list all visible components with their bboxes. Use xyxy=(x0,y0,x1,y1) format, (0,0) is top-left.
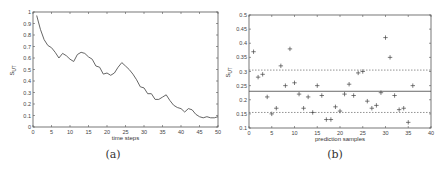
y-tick-label: 0.15 xyxy=(236,111,247,117)
y-axis-label: SUT xyxy=(9,65,17,75)
x-axis-label: time steps xyxy=(112,135,139,141)
y-tick-label: 0.8 xyxy=(23,32,31,38)
x-tick-label: 30 xyxy=(141,129,147,135)
x-tick-label: 30 xyxy=(382,130,388,136)
data-point-plus-marker xyxy=(411,83,415,87)
data-point-plus-marker xyxy=(383,35,387,39)
x-tick-label: 45 xyxy=(196,129,202,135)
y-tick-label: 1 xyxy=(28,9,31,15)
y-tick-label: 0.4 xyxy=(239,40,247,46)
data-point-plus-marker xyxy=(315,83,319,87)
y-tick-label: 0.5 xyxy=(239,12,247,18)
data-point-plus-marker xyxy=(406,120,410,124)
x-tick-label: 35 xyxy=(405,130,411,136)
data-point-plus-marker xyxy=(365,99,369,103)
data-point-plus-marker xyxy=(342,92,346,96)
y-tick-label: 0.9 xyxy=(23,21,31,27)
data-point-plus-marker xyxy=(279,64,283,68)
x-tick-label: 50 xyxy=(215,129,221,135)
data-point-plus-marker xyxy=(274,106,278,110)
figure-caption: (b) xyxy=(327,148,343,161)
x-tick-label: 5 xyxy=(50,129,53,135)
y-tick-label: 0.25 xyxy=(236,83,247,89)
data-point-plus-marker xyxy=(351,93,355,97)
data-point-plus-marker xyxy=(392,93,396,97)
y-tick-label: 0.6 xyxy=(23,55,31,61)
data-point-plus-marker xyxy=(329,117,333,121)
data-point-plus-marker xyxy=(301,106,305,110)
data-point-plus-marker xyxy=(333,105,337,109)
x-tick-label: 0 xyxy=(31,129,34,135)
x-tick-label: 20 xyxy=(104,129,110,135)
data-point-plus-marker xyxy=(288,47,292,51)
figure-caption: (a) xyxy=(105,148,120,161)
data-point-plus-marker xyxy=(324,117,328,121)
x-tick-label: 5 xyxy=(270,130,273,136)
data-point-plus-marker xyxy=(292,81,296,85)
data-point-plus-marker xyxy=(297,92,301,96)
data-point-plus-marker xyxy=(374,103,378,107)
y-tick-label: 0.2 xyxy=(239,97,247,103)
x-tick-label: 10 xyxy=(67,129,73,135)
data-line xyxy=(37,16,218,118)
y-tick-label: 0.7 xyxy=(23,44,31,50)
x-axis-label: prediction samples xyxy=(315,136,365,142)
x-tick-label: 15 xyxy=(85,129,91,135)
data-point-plus-marker xyxy=(338,109,342,113)
data-point-plus-marker xyxy=(283,83,287,87)
x-tick-label: 35 xyxy=(159,129,165,135)
figure: 0510152025303540455000.10.20.30.40.50.60… xyxy=(0,0,445,170)
y-tick-label: 0.1 xyxy=(239,125,247,131)
data-point-plus-marker xyxy=(260,72,264,76)
data-point-plus-marker xyxy=(311,110,315,114)
x-tick-label: 0 xyxy=(247,130,250,136)
data-point-plus-marker xyxy=(388,55,392,59)
y-tick-label: 0.35 xyxy=(236,54,247,60)
data-point-plus-marker xyxy=(402,106,406,110)
y-tick-label: 0.4 xyxy=(23,78,31,84)
x-tick-label: 40 xyxy=(428,130,434,136)
data-point-plus-marker xyxy=(265,95,269,99)
data-point-plus-marker xyxy=(397,107,401,111)
data-point-plus-marker xyxy=(256,75,260,79)
data-point-plus-marker xyxy=(356,71,360,75)
y-tick-label: 0.3 xyxy=(23,90,31,96)
y-tick-label: 0.3 xyxy=(239,69,247,75)
data-point-plus-marker xyxy=(320,93,324,97)
chart-b-scatter-plot: 05101520253035400.10.150.20.250.30.350.4… xyxy=(225,12,434,161)
y-tick-label: 0.2 xyxy=(23,101,31,107)
data-point-plus-marker xyxy=(306,95,310,99)
y-tick-label: 0 xyxy=(28,124,31,130)
y-tick-label: 0.1 xyxy=(23,113,31,119)
plot-frame xyxy=(33,12,218,127)
data-point-plus-marker xyxy=(370,106,374,110)
data-point-plus-marker xyxy=(347,82,351,86)
y-tick-label: 0.5 xyxy=(23,67,31,73)
data-point-plus-marker xyxy=(251,50,255,54)
y-axis-label: SUT xyxy=(225,67,233,77)
x-tick-label: 40 xyxy=(178,129,184,135)
chart-a-line-plot: 0510152025303540455000.10.20.30.40.50.60… xyxy=(9,9,221,161)
x-tick-label: 10 xyxy=(291,130,297,136)
y-tick-label: 0.45 xyxy=(236,26,247,32)
